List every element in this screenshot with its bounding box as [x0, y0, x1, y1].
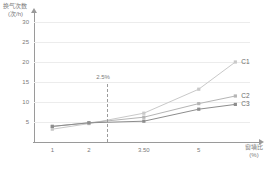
series-label-c1: C1 [241, 58, 249, 65]
series-marker [142, 112, 145, 115]
chart-container: 换气次数 (次/h) 窗墙比 (%) 51015202530 123.505 2… [0, 0, 277, 173]
series-marker [234, 60, 237, 63]
series-marker [197, 88, 200, 91]
series-marker [234, 103, 237, 106]
annotation-dashed-line [107, 84, 108, 142]
series-marker [142, 120, 145, 123]
series-label-c2: C2 [241, 92, 249, 99]
series-line-c3 [52, 104, 235, 126]
series-marker [142, 116, 145, 119]
series-line-c1 [52, 62, 235, 129]
series-marker [197, 102, 200, 105]
series-lines-group [0, 0, 277, 173]
series-marker [51, 128, 54, 131]
series-marker [51, 125, 54, 128]
series-marker [197, 108, 200, 111]
series-label-c3: C3 [241, 100, 249, 107]
series-marker [234, 94, 237, 97]
series-marker [87, 121, 90, 124]
annotation-label: 2.5% [96, 74, 110, 81]
